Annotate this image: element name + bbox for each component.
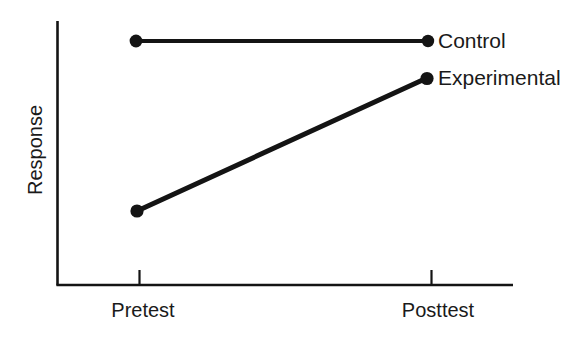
series-label-control: Control [438, 30, 506, 51]
x-tick-label-posttest: Posttest [402, 300, 474, 320]
series-label-experimental: Experimental [438, 67, 561, 88]
experimental-pretest-marker [130, 204, 143, 217]
control-posttest-marker [422, 35, 434, 47]
y-axis-title: Response [25, 105, 45, 195]
control-pretest-marker [130, 35, 143, 48]
chart-figure: Control Experimental Pretest Posttest Re… [0, 0, 587, 338]
experimental-posttest-marker [420, 72, 433, 85]
x-tick-label-pretest: Pretest [111, 300, 174, 320]
